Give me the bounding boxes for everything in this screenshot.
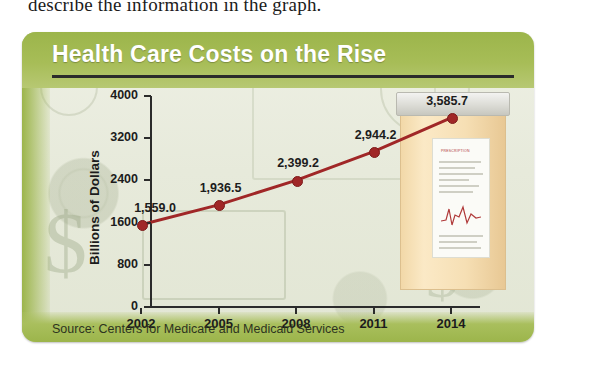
y-axis-tick-label: 3200 bbox=[84, 130, 138, 144]
series-line bbox=[22, 32, 534, 342]
source-note: Source: Centers for Medicare and Medicai… bbox=[52, 322, 345, 336]
x-axis-tick bbox=[295, 308, 297, 314]
data-point bbox=[292, 176, 303, 187]
y-axis-tick-label: 800 bbox=[84, 257, 138, 271]
x-axis-tick bbox=[373, 308, 375, 314]
data-point bbox=[137, 220, 148, 231]
y-axis-tick bbox=[144, 179, 151, 181]
y-axis-tick-label: 2400 bbox=[84, 172, 138, 186]
y-axis-tick bbox=[144, 264, 151, 266]
data-point bbox=[447, 113, 458, 124]
y-axis-tick bbox=[144, 95, 151, 97]
x-axis-tick-label: 2011 bbox=[348, 316, 400, 331]
x-axis-tick bbox=[218, 308, 220, 314]
y-axis-tick-label: 1600 bbox=[84, 215, 138, 229]
plot-area: Billions of Dollars 08001600240032004000… bbox=[22, 32, 534, 342]
y-axis-tick bbox=[144, 137, 151, 139]
chart-figure: Health Care Costs on the Rise PRESCRIPTI… bbox=[22, 32, 534, 342]
y-axis-tick-label: 4000 bbox=[84, 88, 138, 102]
data-point-label: 1,559.0 bbox=[134, 201, 176, 215]
y-axis-tick-label: 0 bbox=[84, 299, 138, 313]
x-axis-tick bbox=[450, 308, 452, 314]
page-body-text: describe the information in the graph. bbox=[28, 0, 548, 16]
data-point-label: 1,936.5 bbox=[200, 181, 242, 195]
data-point-label: 3,585.7 bbox=[426, 94, 468, 108]
y-axis-tick bbox=[144, 306, 151, 308]
x-axis-tick-label: 2014 bbox=[425, 316, 477, 331]
data-point-label: 2,944.2 bbox=[355, 128, 397, 142]
data-point-label: 2,399.2 bbox=[277, 156, 319, 170]
x-axis-tick bbox=[140, 308, 142, 314]
